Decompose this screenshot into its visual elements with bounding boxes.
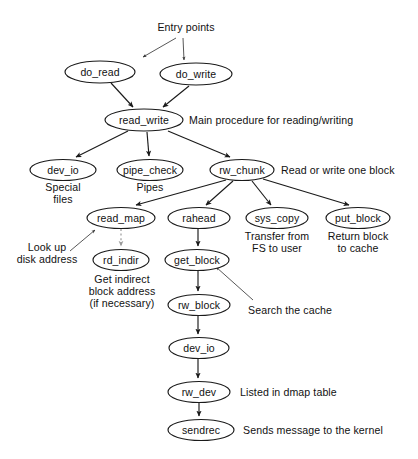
node-rw-dev[interactable]: rw_dev — [168, 382, 230, 403]
diagram-canvas: do_read do_write read_write dev_io pipe_… — [0, 0, 418, 459]
node-rw-block[interactable]: rw_block — [168, 295, 230, 316]
edge-entrypoints-to-do-write — [183, 38, 184, 60]
edge-read-write-to-dev-io — [76, 131, 128, 157]
annotation-put-block-note-line2: to cache — [338, 242, 379, 254]
node-do-read[interactable]: do_read — [65, 61, 135, 83]
edge-read-write-to-rw-chunk — [168, 131, 230, 157]
annotation-rd-indir-note-line1: Get indirect — [94, 273, 149, 285]
annotation-entry-points: Entry points — [157, 21, 214, 33]
annotation-read-map-note-line2: disk address — [17, 253, 78, 265]
edge-read-write-to-pipe-check — [147, 132, 149, 156]
call-graph-diagram: do_read do_write read_write dev_io pipe_… — [0, 0, 418, 459]
node-label-sys-copy: sys_copy — [255, 212, 300, 224]
node-label-do-read: do_read — [80, 66, 119, 78]
node-pipe-check[interactable]: pipe_check — [117, 160, 183, 181]
annotation-pipe-check-note: Pipes — [137, 181, 164, 193]
node-label-put-block: put_block — [335, 212, 381, 224]
node-label-read-write: read_write — [119, 114, 169, 126]
node-rw-chunk[interactable]: rw_chunk — [210, 160, 274, 181]
node-label-rahead: rahead — [182, 212, 215, 224]
node-rahead[interactable]: rahead — [168, 208, 230, 229]
node-sendrec[interactable]: sendrec — [168, 420, 234, 441]
annotation-read-write-note: Main procedure for reading/writing — [189, 114, 353, 126]
annotation-sys-copy-note-line2: FS to user — [252, 242, 302, 254]
leader-read-map-note — [70, 230, 95, 251]
node-label-rd-indir: rd_indir — [103, 254, 139, 266]
annotation-dev-io-note-line2: files — [53, 193, 72, 205]
node-read-map[interactable]: read_map — [87, 208, 155, 229]
node-read-write[interactable]: read_write — [105, 109, 183, 131]
node-rd-indir[interactable]: rd_indir — [93, 250, 149, 271]
node-dev-io[interactable]: dev_io — [30, 160, 96, 181]
annotation-put-block-note-line1: Return block — [328, 230, 389, 242]
node-label-sendrec: sendrec — [182, 424, 220, 436]
annotation-get-block-note: Search the cache — [248, 304, 332, 316]
annotation-read-map-note-line1: Look up — [28, 241, 66, 253]
edge-rw-chunk-to-sys-copy — [252, 181, 271, 205]
annotation-rd-indir-note-line3: (if necessary) — [90, 297, 155, 309]
node-label-get-block: get_block — [174, 254, 220, 266]
node-label-rw-block: rw_block — [178, 299, 221, 311]
node-label-rw-chunk: rw_chunk — [219, 164, 265, 176]
node-label-pipe-check: pipe_check — [123, 164, 178, 176]
node-sys-copy[interactable]: sys_copy — [246, 208, 308, 229]
edge-do-write-to-read-write — [163, 86, 189, 107]
edge-rw-chunk-to-put-block — [263, 179, 349, 205]
edge-do-read-to-read-write — [111, 83, 133, 107]
node-label-rw-dev: rw_dev — [182, 386, 217, 398]
node-get-block[interactable]: get_block — [165, 250, 229, 271]
node-do-write[interactable]: do_write — [160, 63, 232, 85]
annotation-rw-dev-note: Listed in dmap table — [240, 386, 337, 398]
node-dev-io-2[interactable]: dev_io — [169, 338, 229, 359]
node-label-do-write: do_write — [176, 68, 217, 80]
annotation-rd-indir-note-line2: block address — [89, 285, 156, 297]
leader-get-block-note — [216, 267, 253, 300]
node-put-block[interactable]: put_block — [326, 208, 390, 229]
annotation-rw-chunk-note: Read or write one block — [281, 164, 395, 176]
annotation-dev-io-note-line1: Special — [45, 181, 80, 193]
node-label-dev-io: dev_io — [47, 164, 79, 176]
annotation-sendrec-note: Sends message to the kernel — [243, 424, 383, 436]
node-label-read-map: read_map — [97, 212, 145, 224]
node-label-dev-io-2: dev_io — [183, 342, 215, 354]
annotation-sys-copy-note-line1: Transfer from — [245, 230, 310, 242]
edge-entrypoints-to-do-read — [143, 38, 176, 57]
